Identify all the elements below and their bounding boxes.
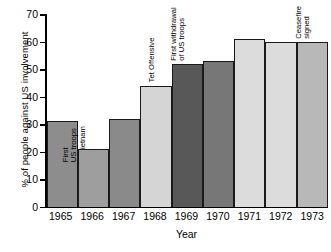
bar-slot: FirstUS troopsin Vietnam bbox=[47, 14, 78, 207]
y-tick-label: 0 bbox=[32, 201, 38, 213]
x-tick-label: 1965 bbox=[45, 210, 76, 222]
y-tick-mark bbox=[40, 14, 45, 16]
y-tick-mark bbox=[40, 124, 45, 126]
x-tick-label: 1973 bbox=[297, 210, 328, 222]
y-tick-mark bbox=[40, 97, 45, 99]
x-tick-label: 1966 bbox=[76, 210, 107, 222]
bar-annotation-line: signed bbox=[304, 6, 312, 39]
y-tick-label: 20 bbox=[26, 146, 38, 158]
bar-annotation: First withdrawalof US troops bbox=[170, 7, 187, 61]
bar-annotation-line: of US troops bbox=[179, 7, 187, 61]
y-tick-mark bbox=[40, 152, 45, 154]
bar-slot bbox=[78, 14, 109, 207]
y-tick-mark bbox=[40, 179, 45, 181]
y-tick-label: 40 bbox=[26, 91, 38, 103]
y-tick-label: 10 bbox=[26, 173, 38, 185]
x-axis-tick-labels: 196519661967196819691970197119721973 bbox=[45, 210, 328, 222]
bar-slot bbox=[265, 14, 296, 207]
x-tick-label: 1967 bbox=[108, 210, 139, 222]
y-tick-mark bbox=[40, 42, 45, 44]
bar[interactable] bbox=[109, 119, 140, 207]
bar-slot: Ceasefiresigned bbox=[297, 14, 328, 207]
x-tick-label: 1968 bbox=[139, 210, 170, 222]
x-tick-label: 1969 bbox=[171, 210, 202, 222]
x-axis-title: Year bbox=[45, 228, 328, 240]
bar[interactable]: Ceasefiresigned bbox=[297, 42, 328, 207]
bar-series: FirstUS troopsin VietnamTet OffensiveFir… bbox=[47, 14, 329, 207]
bar[interactable] bbox=[78, 149, 109, 207]
bar-chart: % of people against US involvement 01020… bbox=[0, 0, 331, 252]
bar-annotation-line: Tet Offensive bbox=[148, 38, 156, 83]
y-tick-label: 60 bbox=[26, 36, 38, 48]
plot-area: 010203040506070 FirstUS troopsin Vietnam… bbox=[45, 14, 328, 208]
bar-slot bbox=[109, 14, 140, 207]
bar-slot: First withdrawalof US troops bbox=[172, 14, 203, 207]
bar[interactable]: FirstUS troopsin Vietnam bbox=[47, 121, 78, 206]
x-axis-line bbox=[45, 207, 328, 209]
bar[interactable] bbox=[265, 42, 296, 207]
bar[interactable] bbox=[234, 39, 265, 207]
x-tick-label: 1972 bbox=[265, 210, 296, 222]
bar-slot: Tet Offensive bbox=[140, 14, 171, 207]
bar-slot bbox=[203, 14, 234, 207]
y-tick-label: 70 bbox=[26, 8, 38, 20]
x-tick-label: 1971 bbox=[234, 210, 265, 222]
bar[interactable]: First withdrawalof US troops bbox=[172, 64, 203, 207]
bar[interactable]: Tet Offensive bbox=[140, 86, 171, 207]
bar-annotation: Ceasefiresigned bbox=[296, 6, 313, 39]
y-tick-label: 50 bbox=[26, 63, 38, 75]
y-tick-mark bbox=[40, 207, 45, 209]
x-tick-label: 1970 bbox=[202, 210, 233, 222]
y-tick-mark bbox=[40, 69, 45, 71]
bar[interactable] bbox=[203, 61, 234, 207]
y-tick-label: 30 bbox=[26, 118, 38, 130]
bar-slot bbox=[234, 14, 265, 207]
bar-annotation: Tet Offensive bbox=[148, 38, 156, 83]
